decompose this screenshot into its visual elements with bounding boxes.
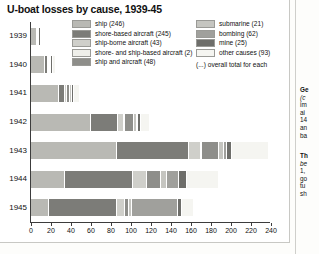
chart-page: U-boat losses by cause, 1939-45 ship (24… bbox=[0, 0, 319, 254]
bar-segment[interactable] bbox=[125, 114, 134, 131]
x-axis-tick bbox=[71, 223, 72, 226]
bar-segment[interactable] bbox=[189, 142, 201, 159]
bar-segment[interactable] bbox=[133, 171, 147, 188]
bar-segment[interactable] bbox=[167, 171, 179, 188]
bar-segment[interactable] bbox=[31, 199, 49, 216]
side-block-line: (c bbox=[300, 94, 319, 102]
bar-segment[interactable] bbox=[141, 114, 149, 131]
side-block-line: im bbox=[300, 101, 319, 109]
bar-segment[interactable] bbox=[53, 56, 55, 73]
side-text-block-2: Thbe1,gotush bbox=[300, 152, 319, 198]
x-axis-tick-label: 120 bbox=[145, 227, 157, 234]
x-axis-tick bbox=[111, 223, 112, 226]
bar-segment[interactable] bbox=[31, 56, 45, 73]
bar-segment[interactable] bbox=[182, 199, 193, 216]
x-axis-tick bbox=[31, 223, 32, 226]
side-block-heading: Th bbox=[300, 152, 319, 160]
bar-segment[interactable] bbox=[39, 28, 40, 45]
x-axis-tick bbox=[91, 223, 92, 226]
side-block-line: an bbox=[300, 124, 319, 132]
y-axis-year-label: 1943 bbox=[1, 146, 27, 155]
x-axis-line bbox=[30, 222, 270, 223]
x-axis-tick-label: 40 bbox=[67, 227, 75, 234]
x-axis-tick-label: 100 bbox=[125, 227, 137, 234]
bar-segment[interactable] bbox=[179, 171, 187, 188]
bar-segment[interactable] bbox=[232, 142, 268, 159]
x-axis-tick-label: 220 bbox=[245, 227, 257, 234]
y-axis-year-label: 1941 bbox=[1, 88, 27, 97]
y-axis-year-label: 1940 bbox=[1, 60, 27, 69]
side-block-line: ba bbox=[300, 132, 319, 140]
x-axis-tick-label: 160 bbox=[185, 227, 197, 234]
bar-row[interactable] bbox=[31, 56, 55, 73]
x-axis-tick-label: 60 bbox=[87, 227, 95, 234]
side-block-line: tu bbox=[300, 182, 319, 190]
bar-row[interactable] bbox=[31, 142, 268, 159]
bar-row[interactable] bbox=[31, 114, 149, 131]
bar-segment[interactable] bbox=[132, 199, 178, 216]
x-axis-tick-label: 0 bbox=[29, 227, 33, 234]
side-panel: Ge(cimai14anba Thbe1,gotush bbox=[291, 0, 319, 254]
side-block-line: 1, bbox=[300, 167, 319, 175]
side-block-line: go bbox=[300, 175, 319, 183]
bar-segment[interactable] bbox=[65, 171, 133, 188]
bar-segment[interactable] bbox=[31, 85, 59, 102]
bar-segment[interactable] bbox=[91, 114, 118, 131]
y-axis-year-label: 1944 bbox=[1, 174, 27, 183]
x-axis-tick-label: 140 bbox=[165, 227, 177, 234]
x-axis-tick-label: 80 bbox=[107, 227, 115, 234]
x-axis-tick bbox=[231, 223, 232, 226]
bar-segment[interactable] bbox=[74, 85, 79, 102]
x-axis-tick bbox=[211, 223, 212, 226]
x-axis-tick-label: 180 bbox=[205, 227, 217, 234]
bar-segment[interactable] bbox=[117, 142, 189, 159]
side-text-block-1: Ge(cimai14anba bbox=[300, 86, 319, 139]
y-axis-year-label: 1945 bbox=[1, 203, 27, 212]
y-axis-year-label: 1942 bbox=[1, 117, 27, 126]
side-block-line: be bbox=[300, 160, 319, 168]
x-axis-tick bbox=[51, 223, 52, 226]
bar-segment[interactable] bbox=[31, 114, 91, 131]
x-axis-tick-label: 20 bbox=[47, 227, 55, 234]
bar-segment[interactable] bbox=[147, 171, 161, 188]
bar-segment[interactable] bbox=[187, 171, 218, 188]
x-axis-tick bbox=[271, 223, 272, 226]
side-block-line: 14 bbox=[300, 116, 319, 124]
side-divider bbox=[295, 0, 296, 254]
page-title: U-boat losses by cause, 1939-45 bbox=[7, 3, 162, 15]
bar-row[interactable] bbox=[31, 85, 79, 102]
x-axis-tick-label: 200 bbox=[225, 227, 237, 234]
x-axis-tick bbox=[171, 223, 172, 226]
x-axis-tick bbox=[131, 223, 132, 226]
bar-segment[interactable] bbox=[31, 142, 117, 159]
y-axis-year-label: 1939 bbox=[1, 31, 27, 40]
x-axis-tick bbox=[191, 223, 192, 226]
plot-area: 0204060801001201401601802002202401939194… bbox=[30, 22, 278, 222]
bar-segment[interactable] bbox=[31, 171, 65, 188]
side-block-line: sh bbox=[300, 190, 319, 198]
x-axis-tick bbox=[251, 223, 252, 226]
bottom-strip bbox=[0, 244, 291, 254]
bar-segment[interactable] bbox=[49, 199, 117, 216]
chart-panel: U-boat losses by cause, 1939-45 ship (24… bbox=[0, 0, 290, 243]
bar-segment[interactable] bbox=[117, 199, 125, 216]
bar-row[interactable] bbox=[31, 199, 193, 216]
bar-row[interactable] bbox=[31, 171, 218, 188]
bar-segment[interactable] bbox=[202, 142, 219, 159]
side-block-line: ai bbox=[300, 109, 319, 117]
x-axis-tick-label: 240 bbox=[265, 227, 277, 234]
side-block-heading: Ge bbox=[300, 86, 319, 94]
x-axis-tick bbox=[151, 223, 152, 226]
bar-row[interactable] bbox=[31, 28, 40, 45]
